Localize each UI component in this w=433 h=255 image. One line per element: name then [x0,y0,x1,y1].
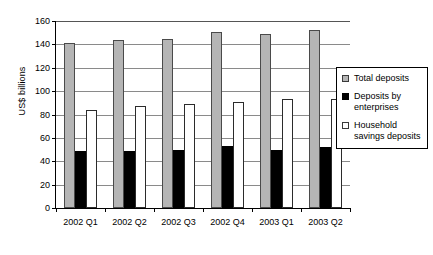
y-tick-label: 80 [40,110,50,120]
bars [56,21,105,208]
x-tick-mark [56,208,57,212]
bar-group: 2002 Q2 [105,21,154,208]
x-tick-label: 2002 Q2 [112,217,147,227]
legend-item-total: Total deposits [342,73,423,84]
x-tick-label: 2002 Q1 [63,217,98,227]
y-tick-label: 60 [40,133,50,143]
bar-total [113,40,124,208]
bar-total [211,32,222,208]
y-tick-label: 0 [45,203,50,213]
bar-total [162,39,173,208]
bar-household [184,104,195,208]
bar-total [309,30,320,208]
bar-enterprises [320,147,331,208]
x-tick-mark [252,208,253,212]
y-tick-label: 100 [35,86,50,96]
legend-label-enterprises: Deposits by enterprises [354,91,423,113]
bar-total [260,34,271,208]
y-axis-title: US$ billions [17,21,27,161]
bar-household [135,106,146,208]
bar-enterprises [124,151,135,208]
legend-swatch-total-icon [342,75,349,82]
bar-group: 2002 Q4 [203,21,252,208]
y-tick-label: 160 [35,16,50,26]
bars [154,21,203,208]
y-tick-label: 20 [40,180,50,190]
x-tick-mark [154,208,155,212]
x-tick-mark [203,208,204,212]
x-tick-mark [350,208,351,212]
bar-enterprises [271,150,282,208]
x-tick-label: 2003 Q1 [259,217,294,227]
y-tick-label: 120 [35,63,50,73]
bar-enterprises [222,146,233,208]
bar-group: 2002 Q3 [154,21,203,208]
bar-household [282,99,293,208]
x-tick-mark [105,208,106,212]
x-tick-label: 2002 Q4 [210,217,245,227]
bar-enterprises [173,150,184,208]
plot-area: 020406080100120140160 2002 Q12002 Q22002… [55,21,350,209]
y-tick-label: 140 [35,39,50,49]
chart-legend: Total deposits Deposits by enterprises H… [336,67,428,149]
bar-group: 2002 Q1 [56,21,105,208]
bars [203,21,252,208]
x-tick-mark [301,208,302,212]
legend-label-total: Total deposits [354,73,409,84]
bar-group: 2003 Q1 [252,21,301,208]
bar-total [64,43,75,208]
x-tick-label: 2003 Q2 [308,217,343,227]
legend-item-household: Household savings deposits [342,120,423,142]
bars [105,21,154,208]
y-tick-label: 40 [40,156,50,166]
legend-item-enterprises: Deposits by enterprises [342,91,423,113]
bars [252,21,301,208]
x-tick-label: 2002 Q3 [161,217,196,227]
bar-groups: 2002 Q12002 Q22002 Q32002 Q42003 Q12003 … [56,21,350,208]
bar-enterprises [75,151,86,208]
bar-household [86,110,97,208]
bar-household [233,102,244,208]
legend-swatch-household-icon [342,122,349,129]
legend-label-household: Household savings deposits [354,120,423,142]
deposits-bar-chart: US$ billions 020406080100120140160 2002 … [0,0,433,255]
legend-swatch-enterprises-icon [342,93,349,100]
